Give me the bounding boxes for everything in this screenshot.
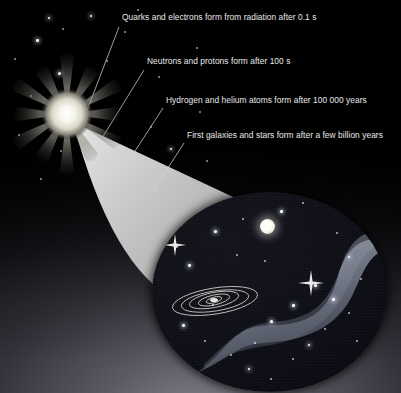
universe-star (302, 202, 304, 204)
big-bang-diagram: Quarks and electrons form from radiation… (0, 0, 401, 393)
background-star (206, 160, 208, 162)
spiked-star-icon (164, 234, 186, 256)
universe-star (188, 264, 191, 267)
universe-star (182, 324, 185, 327)
universe-star (236, 254, 238, 256)
universe-star (270, 320, 273, 323)
universe-star (292, 358, 294, 360)
spiral-galaxy (170, 277, 260, 325)
universe-star (332, 298, 335, 301)
background-star (124, 31, 126, 33)
universe-star (292, 304, 295, 307)
universe-star (280, 210, 283, 213)
background-star (196, 47, 198, 49)
universe-star (212, 304, 214, 306)
background-star (150, 126, 152, 128)
annotation-galaxies: First galaxies and stars form after a fe… (187, 130, 383, 140)
background-star (36, 39, 39, 42)
bright-star (260, 219, 275, 234)
universe-star (336, 232, 338, 234)
universe-star (176, 246, 178, 248)
universe-star (360, 278, 362, 280)
annotation-quarks: Quarks and electrons form from radiation… (122, 12, 316, 22)
universe-star (356, 340, 358, 342)
universe-star (214, 230, 217, 233)
background-star (62, 28, 64, 30)
annotation-neutrons: Neutrons and protons form after 100 s (147, 56, 290, 66)
annotation-atoms: Hydrogen and helium atoms form after 100… (166, 95, 367, 105)
universe-star (264, 260, 266, 262)
background-star (199, 111, 201, 113)
spiked-star-icon (298, 270, 324, 296)
universe-view-circle (152, 192, 387, 392)
universe-star (230, 354, 232, 356)
big-bang-starburst (8, 52, 126, 176)
